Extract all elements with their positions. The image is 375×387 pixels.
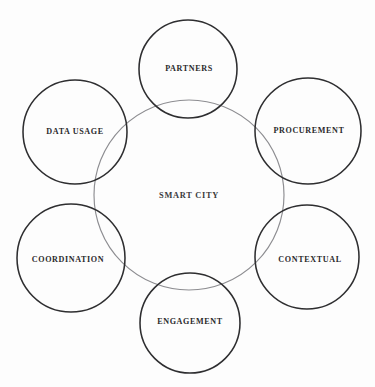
label-coordination: COORDINATION [32, 256, 105, 264]
label-contextual: CONTEXTUAL [278, 256, 341, 264]
label-data-usage: DATA USAGE [46, 128, 103, 136]
label-procurement: PROCUREMENT [273, 127, 344, 135]
label-partners: PARTNERS [165, 65, 213, 73]
label-engagement: ENGAGEMENT [157, 318, 223, 326]
smart-city-diagram: SMART CITY PARTNERS PROCUREMENT CONTEXTU… [0, 0, 375, 387]
center-label-smart-city: SMART CITY [159, 192, 219, 200]
